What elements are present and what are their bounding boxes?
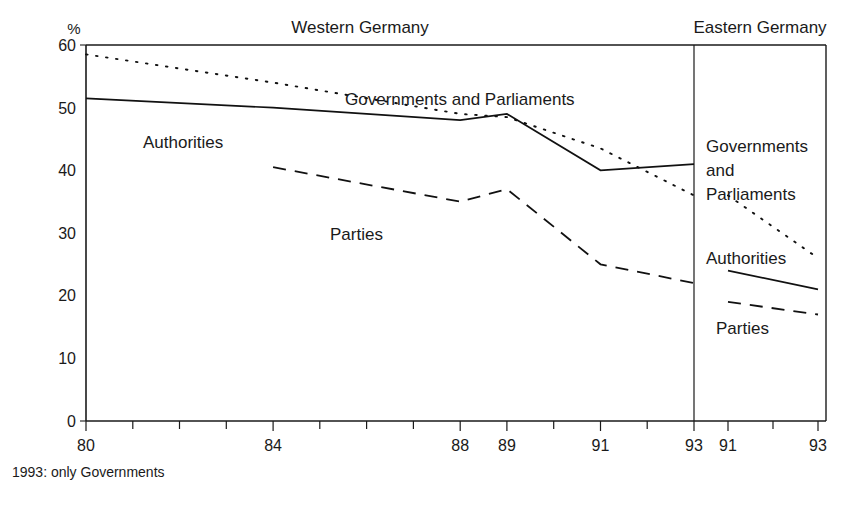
series-line-eastern-parties bbox=[728, 302, 818, 315]
x-tick-label: 91 bbox=[592, 437, 610, 454]
x-tick-label: 88 bbox=[451, 437, 469, 454]
chart-container: Western Germany Eastern Germany % 60 50 … bbox=[0, 0, 863, 509]
y-tick-label: 10 bbox=[58, 350, 76, 367]
series-line-eastern-authorities bbox=[728, 271, 818, 290]
y-tick-label: 50 bbox=[58, 100, 76, 117]
y-tick-label: 20 bbox=[58, 287, 76, 304]
series-label-western-parties: Parties bbox=[330, 225, 383, 244]
x-tick-label: 91 bbox=[719, 437, 737, 454]
series-label-eastern-parties: Parties bbox=[716, 319, 769, 338]
x-tick-label: 80 bbox=[77, 437, 95, 454]
y-axis-tick-labels: 60 50 40 30 20 10 0 bbox=[58, 37, 76, 430]
panel-title-western: Western Germany bbox=[291, 18, 429, 37]
series-line-western-governments-parliaments bbox=[86, 54, 694, 195]
line-chart: Western Germany Eastern Germany % 60 50 … bbox=[0, 0, 863, 509]
chart-footnote: 1993: only Governments bbox=[12, 464, 165, 480]
x-tick-label: 89 bbox=[498, 437, 516, 454]
y-axis-unit-label: % bbox=[67, 20, 80, 37]
series-label-eastern-authorities: Authorities bbox=[706, 249, 786, 268]
x-tick-label: 93 bbox=[685, 437, 703, 454]
series-label-eastern-governments-line2: and bbox=[706, 161, 734, 180]
series-label-eastern-governments-line1: Governments bbox=[706, 137, 808, 156]
x-tick-label: 93 bbox=[809, 437, 827, 454]
panel-title-eastern: Eastern Germany bbox=[693, 18, 827, 37]
x-tick-label: 84 bbox=[264, 437, 282, 454]
y-tick-label: 40 bbox=[58, 162, 76, 179]
series-label-western-authorities: Authorities bbox=[143, 133, 223, 152]
y-tick-label: 30 bbox=[58, 225, 76, 242]
x-axis-tick-labels: 8084888991939193 bbox=[77, 437, 827, 454]
series-label-western-governments-parliaments: Governments and Parliaments bbox=[345, 90, 575, 109]
y-tick-label: 60 bbox=[58, 37, 76, 54]
y-tick-label: 0 bbox=[67, 413, 76, 430]
series-label-eastern-governments-line3: Parliaments bbox=[706, 185, 796, 204]
